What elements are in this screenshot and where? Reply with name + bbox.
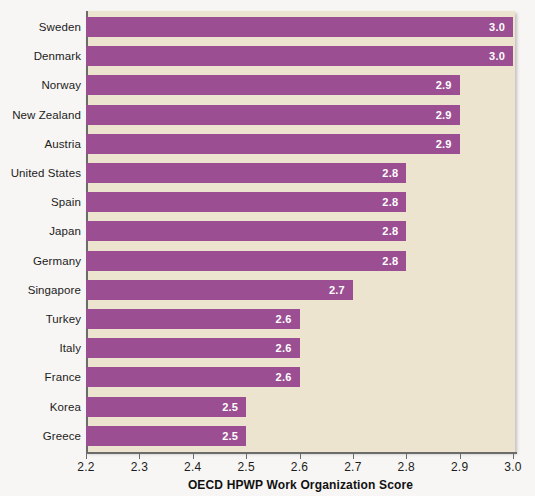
bar-value-label: 2.8 xyxy=(86,221,398,241)
bar-row: 2.8 xyxy=(86,192,515,212)
x-axis-tick-label: 3.0 xyxy=(493,460,533,474)
bar-row: 2.5 xyxy=(86,426,515,446)
bar-value-label: 2.9 xyxy=(86,105,452,125)
category-label: Korea xyxy=(0,401,81,413)
x-axis-tick-label: 2.8 xyxy=(386,460,426,474)
category-label: United States xyxy=(0,167,81,179)
bar-chart: SwedenDenmarkNorwayNew ZealandAustriaUni… xyxy=(0,0,535,496)
x-axis-tick xyxy=(513,452,514,459)
bar-value-label: 2.8 xyxy=(86,163,398,183)
x-axis-tick xyxy=(139,452,140,459)
x-axis-tick xyxy=(246,452,247,459)
bar-value-label: 2.9 xyxy=(86,134,452,154)
category-label: Germany xyxy=(0,255,81,267)
bar-row: 3.0 xyxy=(86,46,515,66)
bar-row: 2.8 xyxy=(86,163,515,183)
bar-value-label: 2.5 xyxy=(86,397,238,417)
x-axis-line xyxy=(86,452,517,454)
bar-value-label: 2.8 xyxy=(86,251,398,271)
bar-row: 2.8 xyxy=(86,221,515,241)
bar-row: 2.8 xyxy=(86,251,515,271)
category-axis: SwedenDenmarkNorwayNew ZealandAustriaUni… xyxy=(0,11,81,452)
category-label: Singapore xyxy=(0,284,81,296)
category-label: France xyxy=(0,371,81,383)
bar-row: 2.7 xyxy=(86,280,515,300)
x-axis-tick xyxy=(193,452,194,459)
bar-row: 2.6 xyxy=(86,338,515,358)
category-label: Turkey xyxy=(0,313,81,325)
category-label: New Zealand xyxy=(0,109,81,121)
x-axis-tick-label: 2.6 xyxy=(280,460,320,474)
category-label: Spain xyxy=(0,196,81,208)
category-label: Sweden xyxy=(0,21,81,33)
x-axis-tick xyxy=(460,452,461,459)
bar-row: 3.0 xyxy=(86,17,515,37)
category-label: Greece xyxy=(0,430,81,442)
bar-row: 2.5 xyxy=(86,397,515,417)
x-axis-tick-label: 2.7 xyxy=(333,460,373,474)
x-axis-tick xyxy=(353,452,354,459)
x-axis-title: OECD HPWP Work Organization Score xyxy=(86,478,515,492)
bar-value-label: 3.0 xyxy=(86,17,505,37)
x-axis-tick-label: 2.2 xyxy=(66,460,106,474)
x-axis-tick-label: 2.9 xyxy=(440,460,480,474)
category-label: Denmark xyxy=(0,50,81,62)
x-axis-tick xyxy=(300,452,301,459)
category-label: Italy xyxy=(0,342,81,354)
bar-value-label: 2.9 xyxy=(86,75,452,95)
x-axis-tick xyxy=(406,452,407,459)
bar-row: 2.6 xyxy=(86,367,515,387)
x-axis-tick-label: 2.3 xyxy=(119,460,159,474)
bar-value-label: 2.7 xyxy=(86,280,345,300)
bar-value-label: 3.0 xyxy=(86,46,505,66)
category-label: Austria xyxy=(0,138,81,150)
category-label: Norway xyxy=(0,79,81,91)
bar-row: 2.6 xyxy=(86,309,515,329)
category-label: Japan xyxy=(0,225,81,237)
bar-value-label: 2.5 xyxy=(86,426,238,446)
bar-value-label: 2.6 xyxy=(86,367,292,387)
x-axis-tick-label: 2.4 xyxy=(173,460,213,474)
bar-value-label: 2.8 xyxy=(86,192,398,212)
x-axis-tick xyxy=(86,452,87,459)
x-axis-tick-label: 2.5 xyxy=(226,460,266,474)
bar-row: 2.9 xyxy=(86,75,515,95)
bar-row: 2.9 xyxy=(86,105,515,125)
bar-value-label: 2.6 xyxy=(86,309,292,329)
bar-row: 2.9 xyxy=(86,134,515,154)
bar-value-label: 2.6 xyxy=(86,338,292,358)
